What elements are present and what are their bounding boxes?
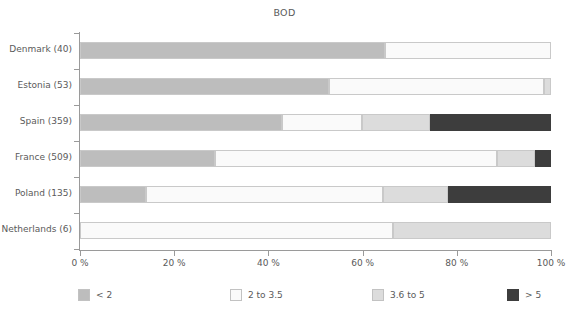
legend-swatch-icon	[78, 289, 90, 301]
y-axis-tick	[74, 69, 79, 70]
x-axis-line	[79, 250, 552, 251]
y-axis-tick	[74, 105, 79, 106]
bar-segment[interactable]	[80, 222, 393, 239]
y-axis-label: Netherlands (6)	[0, 224, 72, 234]
y-axis-tick	[74, 177, 79, 178]
y-axis-label: Estonia (53)	[0, 80, 72, 90]
bar-segment[interactable]	[80, 186, 146, 203]
legend-label: < 2	[96, 289, 112, 301]
y-axis-tick	[74, 213, 79, 214]
bar-segment[interactable]	[329, 78, 544, 95]
bar-row	[80, 78, 551, 95]
y-axis-label: Poland (135)	[0, 188, 72, 198]
y-axis-label: France (509)	[0, 152, 72, 162]
x-axis-tick	[268, 251, 269, 256]
legend-swatch-icon	[230, 289, 242, 301]
bar-row	[80, 114, 551, 131]
x-axis-label: 60 %	[343, 258, 383, 268]
x-axis-tick	[174, 251, 175, 256]
bar-segment[interactable]	[80, 42, 385, 59]
y-axis-tick	[74, 33, 79, 34]
x-axis-tick	[551, 251, 552, 256]
x-axis-label: 0 %	[60, 258, 100, 268]
bar-segment[interactable]	[448, 186, 551, 203]
legend-swatch-icon	[507, 289, 519, 301]
x-axis-label: 100 %	[531, 258, 569, 268]
bar-segment[interactable]	[535, 150, 551, 167]
bar-segment[interactable]	[80, 150, 215, 167]
x-axis-label: 80 %	[437, 258, 477, 268]
bar-segment[interactable]	[430, 114, 551, 131]
bar-segment[interactable]	[215, 150, 497, 167]
y-axis-tick	[74, 141, 79, 142]
bar-segment[interactable]	[80, 78, 329, 95]
bar-segment[interactable]	[393, 222, 551, 239]
bar-row	[80, 186, 551, 203]
bar-segment[interactable]	[383, 186, 448, 203]
legend-swatch-icon	[372, 289, 384, 301]
plot-area	[80, 32, 551, 248]
bar-segment[interactable]	[80, 114, 282, 131]
chart-container: BOD Denmark (40)Estonia (53)Spain (359)F…	[0, 0, 569, 316]
bar-segment[interactable]	[362, 114, 430, 131]
y-axis-tick	[74, 249, 79, 250]
x-axis-tick	[457, 251, 458, 256]
bar-segment[interactable]	[146, 186, 383, 203]
bar-row	[80, 42, 551, 59]
x-axis-tick	[80, 251, 81, 256]
x-axis-tick	[363, 251, 364, 256]
legend-label: > 5	[525, 289, 541, 301]
bar-segment[interactable]	[497, 150, 535, 167]
y-axis-label: Spain (359)	[0, 116, 72, 126]
legend-label: 2 to 3.5	[248, 289, 283, 301]
x-axis-label: 20 %	[154, 258, 194, 268]
bar-row	[80, 150, 551, 167]
bar-segment[interactable]	[385, 42, 551, 59]
chart-title: BOD	[0, 7, 569, 18]
x-axis-label: 40 %	[248, 258, 288, 268]
legend-label: 3.6 to 5	[390, 289, 425, 301]
chart-legend: < 22 to 3.53.6 to 5> 5	[0, 288, 569, 306]
bar-segment[interactable]	[282, 114, 362, 131]
y-axis-label: Denmark (40)	[0, 44, 72, 54]
bar-segment[interactable]	[544, 78, 551, 95]
bar-row	[80, 222, 551, 239]
